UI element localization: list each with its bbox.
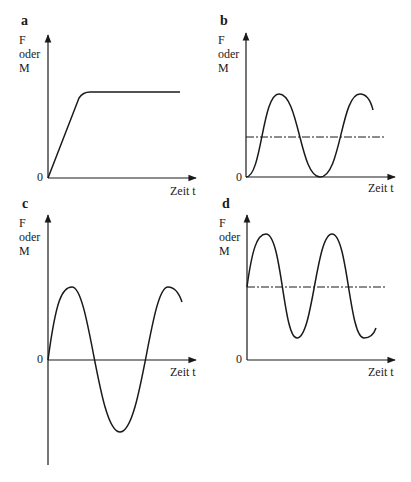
panel-b-y-label: F oder M (218, 33, 239, 75)
y-label-line: M (218, 61, 239, 75)
panel-c-label: c (22, 196, 28, 212)
panel-b-label: b (220, 13, 228, 29)
panel-d-y-label: F oder M (219, 216, 240, 258)
panel-c-axes (48, 215, 196, 465)
panel-a-curve (48, 92, 180, 178)
y-label-line: F (19, 33, 40, 47)
panel-c-zero: 0 (37, 352, 43, 367)
panel-a-x-label: Zeit t (170, 184, 196, 199)
panel-b-curve (246, 94, 373, 177)
y-label-line: F (19, 216, 40, 230)
y-label-line: F (219, 216, 240, 230)
panel-d-x-label: Zeit t (368, 365, 394, 380)
y-label-line: M (219, 244, 240, 258)
y-label-line: oder (218, 47, 239, 61)
y-label-line: oder (19, 230, 40, 244)
panel-a-zero: 0 (37, 170, 43, 185)
panel-c-x-label: Zeit t (170, 365, 196, 380)
y-label-line: oder (19, 47, 40, 61)
panel-d-label: d (222, 196, 230, 212)
y-label-line: M (19, 244, 40, 258)
panel-d-curve (247, 234, 376, 338)
y-label-line: F (218, 33, 239, 47)
panel-b-axes (246, 33, 395, 177)
panel-a-y-label: F oder M (19, 33, 40, 75)
panel-a-label: a (21, 13, 28, 29)
panel-a-axes (48, 35, 196, 178)
panel-b-zero: 0 (236, 170, 242, 185)
panel-d-zero: 0 (236, 352, 242, 367)
load-diagrams (0, 0, 411, 482)
panel-c-y-label: F oder M (19, 216, 40, 258)
y-label-line: M (19, 61, 40, 75)
y-label-line: oder (219, 230, 240, 244)
panel-b-x-label: Zeit t (368, 181, 394, 196)
